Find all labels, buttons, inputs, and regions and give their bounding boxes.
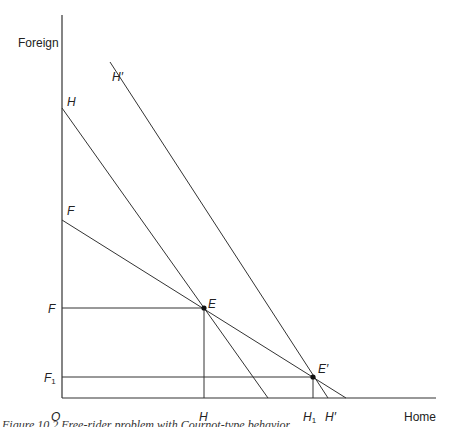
line-label-F: F	[67, 204, 75, 218]
y-axis-label: Foreign	[18, 36, 59, 50]
line-label-H-prime: H′	[112, 70, 124, 84]
point-label-E: E	[208, 297, 217, 311]
x-axis-label: Home	[404, 410, 436, 424]
point-label-E-prime: E′	[318, 362, 329, 376]
tick-label-H-prime: H′	[325, 410, 337, 424]
line-H	[62, 108, 268, 398]
line-H-prime	[110, 62, 328, 398]
tick-label-H1: H1	[303, 410, 317, 425]
reaction-curve-diagram: Foreign Home O H H′ F E E′ F F1 H H1 H′	[0, 0, 453, 436]
point-E-prime	[310, 374, 315, 379]
tick-label-F: F	[48, 302, 56, 316]
point-E	[201, 305, 206, 310]
line-label-H: H	[67, 95, 76, 109]
tick-label-F1: F1	[44, 371, 56, 386]
